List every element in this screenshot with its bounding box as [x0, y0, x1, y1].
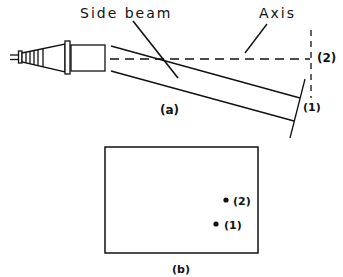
diagram-canvas: Side beam Axis (2) (1) (a) (2) (1) (b): [0, 0, 343, 277]
axis-pointer: [245, 24, 267, 53]
side-beam-upper-edge: [111, 46, 300, 98]
caption-a: (a): [160, 103, 179, 117]
point-2-label: (2): [317, 51, 336, 65]
side-beam-pointer: [133, 21, 178, 78]
point-1-label: (1): [303, 101, 321, 114]
source-device-icon: [10, 41, 105, 74]
side-beam-lower-edge: [111, 71, 294, 121]
spot-1-label: (1): [224, 219, 242, 232]
axis-label: Axis: [259, 5, 296, 21]
caption-b: (b): [172, 263, 190, 276]
side-beam-label: Side beam: [80, 5, 172, 21]
spot-2-label: (2): [233, 195, 251, 208]
spot-2: [223, 197, 228, 202]
spot-1: [213, 221, 218, 226]
